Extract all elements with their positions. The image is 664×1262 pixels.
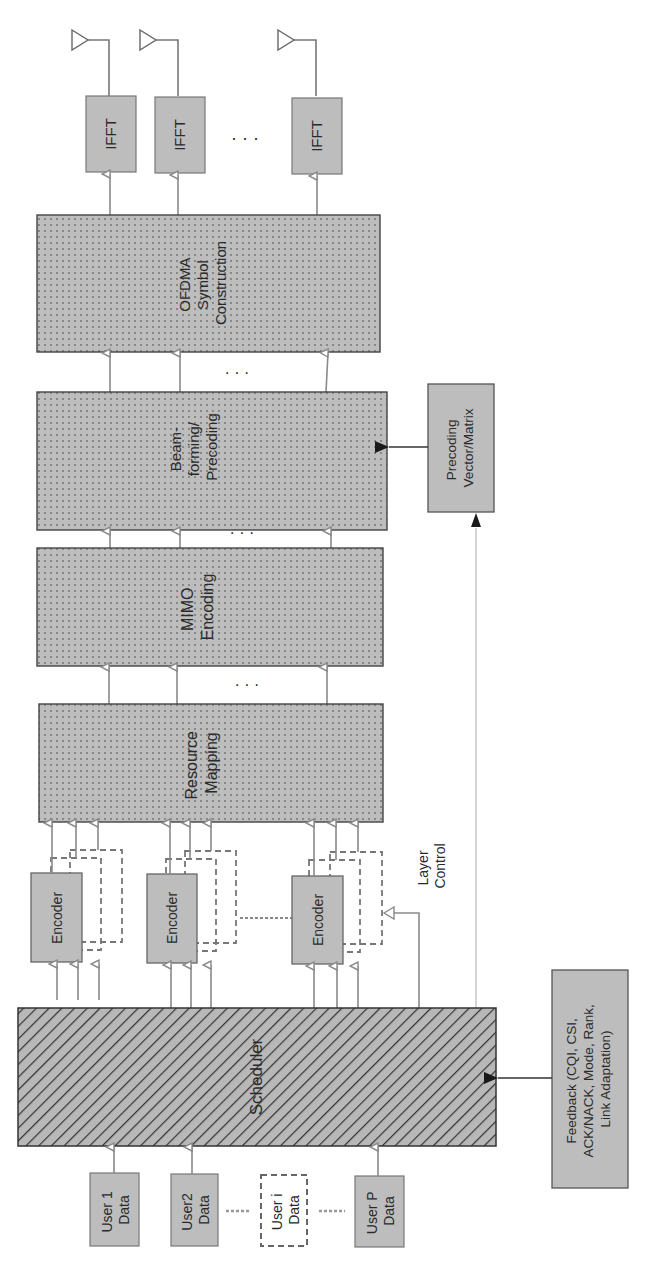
encoder-group-2: Encoder bbox=[147, 823, 236, 1008]
ofdma-label-line1: OFDMA bbox=[176, 258, 193, 312]
encoder-group-1: Encoder bbox=[31, 823, 122, 1000]
user-label-line1: User2 bbox=[179, 1193, 195, 1231]
user-label-line2: Data bbox=[381, 1196, 397, 1226]
ofdma-label-line3: Construction bbox=[212, 241, 229, 325]
user-data-2: User2 Data bbox=[171, 1147, 218, 1246]
antenna-3 bbox=[278, 30, 316, 96]
ifft-label: IFFT bbox=[171, 119, 188, 151]
antenna-icon bbox=[72, 30, 88, 50]
ifft-block-1: IFFT bbox=[86, 96, 136, 172]
scheduler-label: Scheduler bbox=[247, 1038, 266, 1115]
ellipsis: · · · bbox=[225, 364, 250, 381]
user-data-1: User 1 Data bbox=[90, 1147, 139, 1246]
resource-mapping-block: Resource Mapping bbox=[39, 704, 383, 822]
mimo-label-line1: MIMO bbox=[179, 587, 196, 631]
svg-text:User i Data: User i Data bbox=[269, 1190, 302, 1230]
encoder-label: Encoder bbox=[310, 894, 326, 946]
beamforming-label-line2: forming/ bbox=[185, 421, 202, 476]
encoder-group-3: Encoder bbox=[292, 823, 382, 1008]
mimo-ofdma-transmitter-diagram: IFFT IFFT · · · IFFT OFDMA Symbol Constr… bbox=[0, 0, 664, 1262]
resource-label-line1: Resource bbox=[183, 731, 200, 800]
ofdma-to-ifft-arrows bbox=[110, 174, 317, 216]
antenna-icon bbox=[140, 30, 156, 50]
resource-label-line2: Mapping bbox=[203, 732, 220, 793]
encoder-label: Encoder bbox=[49, 892, 65, 944]
ofdma-label-line2: Symbol bbox=[194, 260, 211, 310]
user-data-p: User P Data bbox=[355, 1147, 404, 1247]
antenna-1 bbox=[72, 30, 109, 96]
arrow-head-icon bbox=[384, 907, 394, 919]
svg-text:Layer Control: Layer Control bbox=[415, 843, 448, 888]
ellipsis: · · · bbox=[230, 524, 255, 541]
ifft-label: IFFT bbox=[102, 118, 119, 150]
feedback-line1: Feedback (CQI, CSI, bbox=[564, 1018, 579, 1143]
user-label-line2: Data bbox=[116, 1195, 132, 1225]
ifft-label: IFFT bbox=[308, 120, 325, 152]
user-label-line2: Data bbox=[196, 1195, 212, 1225]
user-label-line1: User 1 bbox=[99, 1191, 115, 1232]
precoding-vector-matrix-block: Precoding Vector/Matrix bbox=[428, 384, 494, 512]
feedback-line3: Link Adaptation) bbox=[598, 1031, 613, 1128]
layer-control-line2: Control bbox=[432, 843, 448, 888]
svg-text:Beam- forming/ Pre: Beam- forming/ Precoding bbox=[167, 413, 220, 481]
feedback-line2: ACK/NACK, Mode, Rank, bbox=[581, 1004, 596, 1157]
ellipsis: · · · bbox=[231, 128, 259, 148]
resource-to-mimo-arrows bbox=[109, 667, 327, 704]
ellipsis: · · · bbox=[235, 676, 260, 693]
user-data-i: User i Data bbox=[261, 1175, 307, 1246]
ifft-block-3: IFFT bbox=[292, 98, 342, 174]
encoder-label: Encoder bbox=[164, 892, 180, 944]
feedback-block: Feedback (CQI, CSI, ACK/NACK, Mode, Rank… bbox=[552, 970, 628, 1188]
arrow-head-icon bbox=[471, 513, 481, 527]
beamforming-precoding-block: Beam- forming/ Precoding bbox=[37, 392, 387, 530]
beamforming-label-line1: Beam- bbox=[167, 427, 184, 471]
user-label-line1: User P bbox=[364, 1192, 380, 1235]
ofdma-symbol-construction-block: OFDMA Symbol Construction bbox=[37, 215, 380, 352]
scheduler-block: Scheduler bbox=[18, 1008, 496, 1146]
beamforming-label-line3: Precoding bbox=[203, 413, 220, 481]
antenna-2 bbox=[140, 30, 178, 96]
precoding-label-line2: Vector/Matrix bbox=[461, 408, 476, 487]
mimo-label-line2: Encoding bbox=[199, 574, 216, 641]
beamforming-to-ofdma-arrows bbox=[110, 353, 328, 392]
user-label-line1: User i bbox=[269, 1194, 285, 1231]
precoding-label-line1: Precoding bbox=[444, 419, 459, 480]
svg-text:User2 Data: User2 Data bbox=[179, 1189, 212, 1230]
mimo-to-beamforming-arrows bbox=[110, 531, 331, 548]
ifft-block-2: IFFT bbox=[155, 97, 205, 173]
antenna-icon bbox=[278, 30, 294, 50]
layer-control-line1: Layer bbox=[415, 850, 431, 885]
layer-control: Layer Control bbox=[384, 843, 448, 1008]
mimo-encoding-block: MIMO Encoding bbox=[37, 548, 383, 666]
user-label-line2: Data bbox=[286, 1195, 302, 1225]
